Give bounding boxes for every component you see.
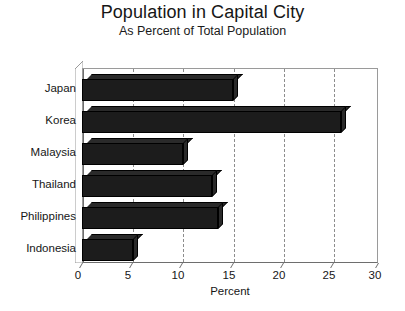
- category-label-thailand: Thailand: [2, 178, 76, 191]
- chart-title: Population in Capital City: [0, 2, 405, 23]
- x-axis-tick-label: 20: [273, 269, 286, 282]
- x-axis-tick-label: 10: [172, 269, 185, 282]
- category-label-korea: Korea: [2, 114, 76, 127]
- category-label-malaysia: Malaysia: [2, 146, 76, 159]
- chart-subtitle: As Percent of Total Population: [0, 24, 405, 39]
- bar-indonesia[interactable]: [82, 239, 133, 261]
- bar-chart-figure: Population in Capital City As Percent of…: [0, 0, 405, 311]
- x-axis-tick: [179, 263, 183, 268]
- x-axis-tick: [230, 263, 234, 268]
- category-label-indonesia: Indonesia: [2, 242, 76, 255]
- x-axis-tick: [330, 263, 334, 268]
- bar-side-face: [233, 74, 238, 101]
- category-axis-labels: Japan Korea Malaysia Thailand Philippine…: [0, 68, 76, 263]
- x-axis-tick: [280, 263, 284, 268]
- x-axis-tick-label: 30: [369, 269, 382, 282]
- bar-philippines[interactable]: [82, 207, 218, 229]
- bar-side-face: [183, 138, 188, 165]
- x-axis-tick: [79, 263, 83, 268]
- bars-layer: [82, 68, 378, 263]
- chart-title-block: Population in Capital City As Percent of…: [0, 2, 405, 39]
- category-label-japan: Japan: [2, 82, 76, 95]
- x-axis-tick-label: 25: [323, 269, 336, 282]
- category-label-philippines: Philippines: [2, 210, 76, 223]
- bar-korea[interactable]: [82, 111, 341, 133]
- bar-malaysia[interactable]: [82, 143, 183, 165]
- bar-thailand[interactable]: [82, 175, 212, 197]
- x-axis-tick-label: 0: [75, 269, 81, 282]
- bar-side-face: [218, 202, 223, 229]
- x-axis-tick-label: 15: [223, 269, 236, 282]
- x-axis-tick: [129, 263, 133, 268]
- bar-side-face: [341, 106, 346, 133]
- x-axis-tick-label: 5: [125, 269, 131, 282]
- bar-side-face: [212, 170, 217, 197]
- bar-side-face: [133, 234, 138, 261]
- x-axis-tick: [375, 263, 379, 268]
- x-axis-title: Percent: [82, 285, 378, 298]
- bar-japan[interactable]: [82, 79, 233, 101]
